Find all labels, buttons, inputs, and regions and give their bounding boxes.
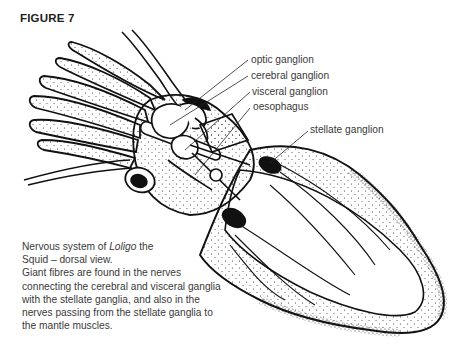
caption-prefix: Nervous system of bbox=[22, 241, 109, 252]
label-cerebral-ganglion: cerebral ganglion bbox=[251, 70, 329, 81]
figure-caption: Nervous system of Loligo the Squid – dor… bbox=[22, 240, 222, 332]
caption-body: Giant fibres are found in the nerves con… bbox=[22, 266, 222, 332]
label-stellate-ganglion: stellate ganglion bbox=[310, 124, 384, 135]
caption-line-2: Squid – dorsal view. bbox=[22, 253, 222, 266]
label-optic-ganglion: optic ganglion bbox=[251, 54, 314, 65]
label-oesophagus: oesophagus bbox=[253, 101, 309, 112]
caption-line-1: Nervous system of Loligo the bbox=[22, 240, 222, 253]
caption-genus-name: Loligo bbox=[109, 241, 136, 252]
label-visceral-ganglion: visceral ganglion bbox=[252, 86, 328, 97]
caption-suffix: the bbox=[136, 241, 153, 252]
